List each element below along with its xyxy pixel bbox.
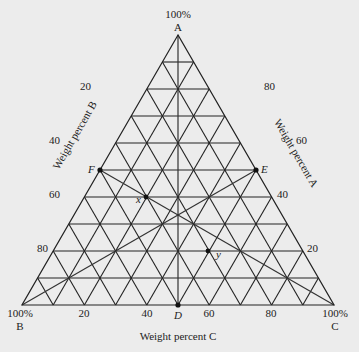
bottom-axis-title: Weight percent C	[140, 330, 217, 342]
right-tick-80: 80	[264, 80, 276, 92]
point-e-marker	[253, 167, 258, 172]
point-e-label: E	[260, 163, 268, 175]
left-tick-80: 80	[37, 242, 49, 254]
point-f-label: F	[87, 163, 95, 175]
vertex-c-percent: 100%	[322, 307, 348, 319]
bottom-tick-40: 40	[142, 307, 154, 319]
point-f-marker	[97, 167, 102, 172]
vertex-b-percent: 100%	[7, 307, 33, 319]
vertex-c-label: C	[331, 320, 338, 332]
right-tick-20: 20	[307, 242, 319, 254]
vertex-b-label: B	[16, 320, 23, 332]
right-tick-40: 40	[277, 188, 289, 200]
point-d-marker	[175, 302, 180, 307]
construction-lines	[22, 35, 334, 305]
point-d-label: D	[173, 309, 182, 321]
vertex-a-percent: 100%	[165, 8, 191, 20]
point-y-label: y	[215, 248, 221, 260]
bottom-tick-80: 80	[266, 307, 278, 319]
left-tick-20: 20	[80, 80, 92, 92]
point-y-marker	[206, 249, 211, 254]
point-x-label: x	[135, 193, 141, 205]
vertex-a-label: A	[174, 21, 182, 33]
bottom-tick-60: 60	[204, 307, 216, 319]
ternary-diagram: 100% A 100% B 100% C 20 40 60 80 80 60 4…	[0, 0, 359, 352]
left-tick-60: 60	[49, 188, 61, 200]
point-x-marker	[144, 195, 149, 200]
bottom-tick-20: 20	[79, 307, 91, 319]
right-axis-title: Weight percent A	[272, 117, 321, 189]
left-tick-40: 40	[49, 134, 61, 146]
